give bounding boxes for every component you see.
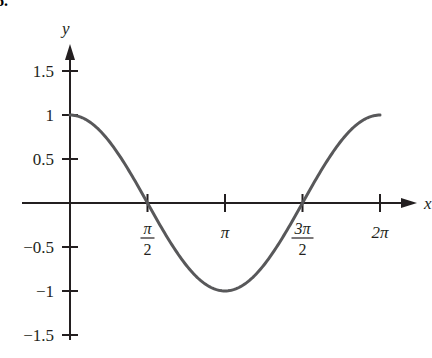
y-axis-label: y: [60, 19, 70, 38]
y-tick-label: 1: [46, 106, 55, 125]
x-tick-label-numerator: π: [143, 220, 152, 237]
x-tick-label: π: [221, 223, 230, 242]
y-tick-label: 0.5: [33, 150, 54, 169]
problem-number: 6.: [0, 0, 8, 9]
y-axis-arrow-icon: [65, 44, 75, 60]
x-tick-label-numerator: 3π: [293, 220, 311, 237]
y-axis: [65, 44, 75, 340]
x-axis-arrow-icon: [401, 198, 417, 208]
x-tick-label-denominator: 2: [299, 241, 307, 258]
y-tick-label: −1.5: [23, 326, 54, 345]
x-tick-label: 2π: [371, 223, 389, 242]
y-tick-label: −1: [36, 282, 54, 301]
x-axis-label: x: [423, 194, 432, 213]
y-tick-label: 1.5: [33, 62, 54, 81]
x-axis: [22, 198, 417, 208]
y-tick-label: −0.5: [23, 238, 54, 257]
x-tick-label-denominator: 2: [144, 241, 152, 258]
cosine-chart: 6. y x 1.510.5−0.5−1−1.5 π2π3π22π: [0, 0, 432, 358]
